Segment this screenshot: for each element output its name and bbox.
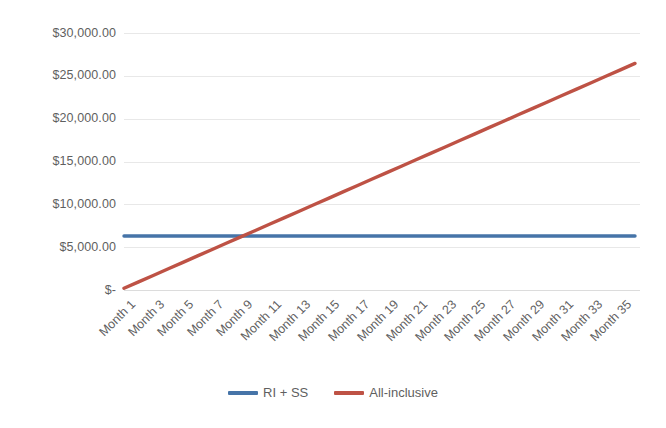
legend-line-swatch-icon [334,391,364,395]
legend-entry[interactable]: RI + SS [228,386,308,400]
y-axis-tick-label: $- [0,284,116,297]
y-axis-tick-label: $30,000.00 [0,27,116,40]
legend-entry[interactable]: All-inclusive [334,386,438,400]
y-axis: $-$5,000.00$10,000.00$15,000.00$20,000.0… [0,0,116,330]
legend-line-swatch-icon [228,391,258,395]
series-layer [124,33,640,290]
line-chart: $-$5,000.00$10,000.00$15,000.00$20,000.0… [0,0,666,428]
series-line [124,63,635,288]
chart-legend: RI + SSAll-inclusive [0,386,666,400]
y-axis-tick-label: $10,000.00 [0,198,116,211]
legend-label: RI + SS [263,386,308,400]
y-axis-tick-label: $5,000.00 [0,241,116,254]
x-axis: Month 1Month 3Month 5Month 7Month 9Month… [124,292,640,382]
y-axis-tick-label: $15,000.00 [0,155,116,168]
y-axis-tick-label: $25,000.00 [0,69,116,82]
y-axis-tick-label: $20,000.00 [0,112,116,125]
legend-label: All-inclusive [369,386,438,400]
plot-area [124,33,640,290]
